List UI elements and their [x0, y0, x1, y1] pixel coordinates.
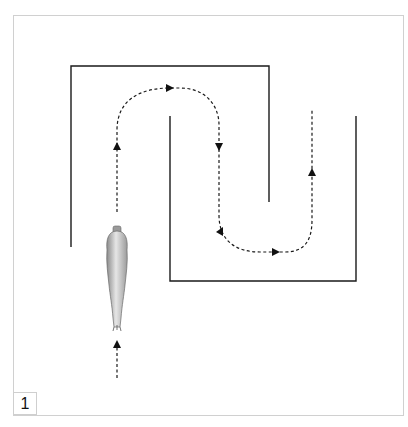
- figure-label: 1: [13, 392, 37, 415]
- entry-arrow-up-icon: [113, 340, 121, 348]
- serpentine-diagram: [0, 0, 408, 427]
- dashed-route-path: [117, 88, 312, 252]
- arrow-left-down-icon: [216, 227, 223, 236]
- arrow-down-icon: [215, 143, 223, 151]
- arrow-right-icon: [166, 84, 174, 92]
- inner-u-wall: [170, 116, 356, 281]
- horse-icon: [107, 226, 128, 331]
- arrow-up-icon: [113, 142, 121, 150]
- figure-frame: [14, 16, 404, 416]
- arrow-right-icon: [272, 248, 280, 256]
- arrow-up-icon: [308, 168, 316, 176]
